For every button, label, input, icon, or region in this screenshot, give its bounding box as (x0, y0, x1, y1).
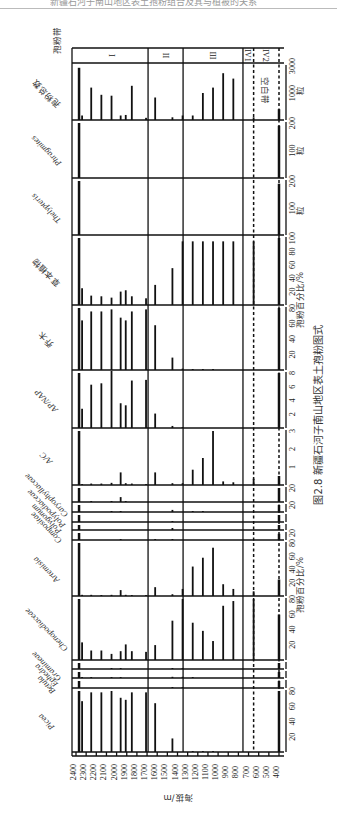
zone-label-I: I (107, 54, 116, 57)
gramineae-bar (120, 668, 122, 669)
apnap-bar (81, 409, 83, 428)
herbs-bar (125, 290, 127, 305)
zone-label-IV2: IV2 (261, 49, 270, 62)
artemisia-bar (131, 595, 133, 596)
chenopodiaceae-bar (78, 599, 81, 660)
picea-bar (202, 751, 204, 752)
elevation-tick-label: 2000 (110, 764, 119, 780)
compositae_2-bar (278, 534, 281, 540)
polypodiaceae-bar (78, 505, 81, 512)
herbs-tick-label: 100 (288, 232, 297, 244)
total-tick-label: 3000 (288, 58, 297, 74)
compositae_2-bar (120, 539, 122, 540)
chenopodiaceae-bar (90, 651, 92, 660)
compositae_2-bar (172, 539, 174, 540)
trees-bar (131, 311, 133, 370)
betula-bar (172, 687, 174, 688)
polypodiaceae-bar (202, 511, 204, 512)
herbs-bar (145, 298, 147, 305)
phragmites-bar (78, 123, 81, 178)
trees-bar (78, 308, 81, 370)
herbs-bar (253, 241, 255, 305)
picea-bar (81, 701, 83, 752)
thelypteris-bar (278, 184, 281, 235)
picea-bar (78, 691, 81, 752)
herbs-bar (90, 296, 92, 305)
trees-name-label: 乔木 (36, 330, 56, 350)
polypodiaceae-bar (192, 511, 194, 512)
herbs-bar (78, 238, 81, 305)
elevation-tick-label: 1800 (130, 764, 139, 780)
gramineae-bar (278, 663, 281, 669)
total-name-label: 孢粉总数 (30, 77, 63, 110)
picea-bar (100, 692, 102, 752)
artemisia-bar (192, 567, 194, 596)
picea-tick-label: 20 (288, 733, 297, 741)
artemisia-bar (212, 548, 214, 596)
ephedra-bar (192, 677, 194, 678)
artemisia-name-label: Artemisia (31, 555, 62, 586)
betula-bar (278, 681, 281, 688)
herbs-tick-label: 80 (288, 247, 297, 255)
trees-bar (90, 311, 92, 370)
compositae_2-bar (154, 539, 156, 540)
chenopodiaceae-bar (278, 615, 281, 660)
elevation-tick-label: 1300 (181, 764, 190, 780)
apnap-bar (154, 414, 156, 428)
elevation-axis-title: 海拔/m (163, 793, 192, 803)
total-bar (253, 117, 255, 120)
trees-tick-label: 40 (288, 335, 297, 343)
ephedra-bar (120, 677, 122, 678)
elevation-tick-label: 1100 (201, 764, 210, 780)
elevation-tick-label: 1500 (160, 764, 169, 780)
elevation-tick-label: 800 (231, 766, 240, 778)
artemisia-bar (253, 591, 255, 596)
phragmites-tick-label: 200 (288, 117, 297, 129)
elevation-tick-label: 1900 (120, 764, 129, 780)
elevation-tick-label: 1000 (211, 764, 220, 780)
chenopodiaceae-bar (232, 601, 234, 660)
compositae-bar (78, 525, 81, 530)
chenopodiaceae-name-label: Chenopodiaceae (22, 606, 70, 654)
picea-bar (120, 698, 122, 752)
ac-bar (192, 470, 194, 485)
herbs-bar (111, 298, 113, 305)
trees-bar (100, 311, 102, 370)
elevation-tick-label: 700 (242, 766, 251, 778)
caryophyllaceae-tick-label: 20 (288, 484, 297, 492)
ac-bar (90, 484, 92, 485)
picea-name-label: Picea (35, 712, 56, 733)
chenopodiaceae-bar (202, 631, 204, 660)
picea-bar (212, 751, 214, 752)
caryophyllaceae-bar (111, 501, 113, 502)
apnap-bar (120, 403, 122, 428)
apnap-bar (182, 427, 184, 428)
trees-bar (278, 308, 281, 370)
picea-bar (131, 692, 133, 752)
apnap-bar (125, 405, 127, 428)
elevation-tick-label: 400 (272, 766, 281, 778)
herbs-bar (202, 241, 204, 305)
trees-bar (192, 369, 194, 370)
ephedra-bar (78, 672, 81, 678)
total-bar (278, 109, 281, 120)
gramineae-bar (78, 663, 81, 669)
chenopodiaceae-bar (192, 623, 194, 660)
total-bar (154, 98, 156, 121)
ac-bar (253, 479, 255, 485)
total-bar (202, 93, 204, 120)
compositae-bar (278, 525, 281, 530)
trees-bar (172, 358, 174, 370)
caryophyllaceae-bar (125, 501, 127, 502)
ephedra-bar (182, 677, 184, 678)
artemisia-bar (202, 558, 204, 596)
picea-bar (172, 738, 174, 752)
polygonum-bar (278, 515, 281, 522)
total-bar (90, 88, 92, 120)
picea-bar (125, 700, 127, 752)
total-bar (232, 79, 234, 120)
ac-tick-label: 1 (288, 465, 297, 469)
elevation-tick-label: 2300 (79, 764, 88, 780)
ac-bar (202, 458, 204, 485)
ac-bar (172, 483, 174, 485)
